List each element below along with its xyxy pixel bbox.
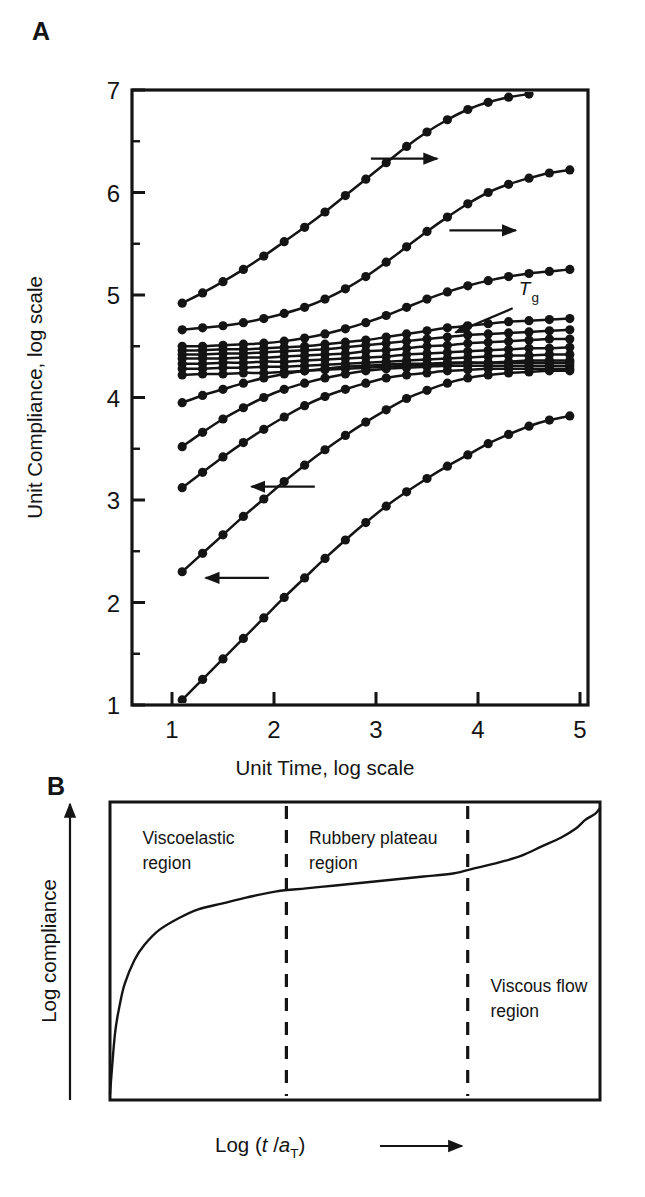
data-point xyxy=(402,303,411,312)
data-point xyxy=(422,326,431,335)
data-point xyxy=(198,323,207,332)
data-point xyxy=(565,411,574,420)
y-axis-title: Unit Compliance, log scale xyxy=(23,276,46,519)
data-point xyxy=(320,554,329,563)
data-point xyxy=(422,368,431,377)
data-point xyxy=(341,191,350,200)
data-point xyxy=(402,142,411,151)
data-point xyxy=(443,115,452,124)
data-point xyxy=(259,494,268,503)
region-label-line2: region xyxy=(490,1001,539,1021)
data-point xyxy=(402,242,411,251)
data-point xyxy=(443,213,452,222)
data-point xyxy=(178,695,187,704)
data-point xyxy=(484,276,493,285)
y-axis-title: Log compliance xyxy=(37,879,60,1023)
data-point xyxy=(239,265,248,274)
data-point xyxy=(524,422,533,431)
data-point xyxy=(443,287,452,296)
data-point xyxy=(218,414,227,423)
y-tick-label: 2 xyxy=(107,590,120,617)
tg-pointer-arrow-icon xyxy=(456,308,513,332)
data-point xyxy=(198,549,207,558)
data-point xyxy=(443,462,452,471)
data-point xyxy=(484,98,493,107)
region-label-group: Rubbery plateauregion xyxy=(309,828,437,873)
data-point xyxy=(504,430,513,439)
y-tick-label: 1 xyxy=(107,692,120,719)
data-point xyxy=(361,318,370,327)
data-point xyxy=(198,468,207,477)
data-point xyxy=(320,392,329,401)
data-point xyxy=(320,445,329,454)
data-point xyxy=(361,518,370,527)
tg-symbol: T xyxy=(519,278,532,299)
data-point xyxy=(280,412,289,421)
data-point xyxy=(320,295,329,304)
data-point xyxy=(504,328,513,337)
series-line xyxy=(182,371,570,572)
series-line xyxy=(182,416,570,700)
data-point xyxy=(239,512,248,521)
data-point xyxy=(484,370,493,379)
data-point xyxy=(463,365,472,374)
region-label-line1: Rubbery plateau xyxy=(309,828,437,848)
data-point xyxy=(545,168,554,177)
data-point xyxy=(524,316,533,325)
data-point xyxy=(361,366,370,375)
data-point xyxy=(239,379,248,388)
panel-a-svg: 123456712345Unit Time, log scaleUnit Com… xyxy=(0,55,645,765)
data-point xyxy=(524,174,533,183)
data-point xyxy=(463,199,472,208)
data-point xyxy=(239,368,248,377)
data-point xyxy=(300,366,309,375)
data-point xyxy=(545,326,554,335)
data-point xyxy=(463,450,472,459)
data-point xyxy=(422,474,431,483)
data-point xyxy=(300,461,309,470)
series-line xyxy=(182,170,570,330)
data-point xyxy=(280,477,289,486)
data-series xyxy=(178,90,534,308)
data-point xyxy=(382,364,391,373)
data-point xyxy=(443,366,452,375)
data-point xyxy=(545,315,554,324)
data-point xyxy=(198,675,207,684)
y-tick-label: 7 xyxy=(107,77,120,104)
data-point xyxy=(545,267,554,276)
data-point xyxy=(484,338,493,347)
data-point xyxy=(259,314,268,323)
data-point xyxy=(320,364,329,373)
data-point xyxy=(484,439,493,448)
data-point xyxy=(565,366,574,375)
data-point xyxy=(545,415,554,424)
data-point xyxy=(198,391,207,400)
data-point xyxy=(300,379,309,388)
compliance-curve xyxy=(110,808,600,1094)
data-point xyxy=(178,299,187,308)
data-point xyxy=(178,442,187,451)
data-point xyxy=(218,369,227,378)
data-point xyxy=(341,385,350,394)
data-point xyxy=(178,567,187,576)
data-point xyxy=(361,379,370,388)
data-point xyxy=(178,398,187,407)
data-point xyxy=(422,386,431,395)
data-point xyxy=(300,333,309,342)
data-point xyxy=(218,277,227,286)
data-point xyxy=(239,634,248,643)
data-point xyxy=(463,373,472,382)
data-point xyxy=(218,452,227,461)
data-point xyxy=(443,332,452,341)
panel-a-letter: A xyxy=(32,17,50,46)
data-point xyxy=(565,314,574,323)
data-point xyxy=(320,329,329,338)
data-point xyxy=(280,385,289,394)
data-point xyxy=(565,325,574,334)
data-point xyxy=(239,318,248,327)
x-title-close: ) xyxy=(299,1133,306,1156)
data-point xyxy=(504,93,513,102)
x-axis-title: Log (t /aT) xyxy=(215,1133,305,1161)
data-point xyxy=(504,368,513,377)
x-tick-label: 3 xyxy=(369,716,382,743)
